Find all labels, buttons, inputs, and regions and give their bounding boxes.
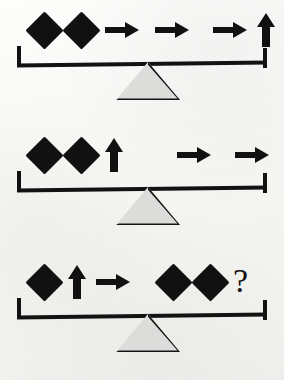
diamond-icon [62,11,100,49]
balance-scale-2 [0,125,284,251]
beam-end-right [263,300,267,320]
diamond-icon [25,136,63,174]
beam-end-left [17,171,21,191]
beam-end-right [263,48,267,68]
scale-3-beam [17,298,267,322]
unknown-question-mark: ? [233,264,248,300]
scale-2-beam [17,171,267,195]
arrow-right-icon [155,19,189,41]
diamond-icon [25,11,63,49]
arrow-right-icon [177,144,211,166]
arrow-right-icon [235,144,269,166]
balance-scale-1 [0,0,284,126]
diamond-icon [62,136,100,174]
puzzle-sheet: ? [0,0,284,380]
arrow-right-icon [96,271,130,293]
diamond-icon [154,263,192,301]
balance-scale-3: ? [0,252,284,378]
beam-end-left [17,46,21,66]
diamond-icon [25,263,63,301]
diamond-icon [191,263,229,301]
arrow-right-icon [213,19,247,41]
arrow-right-icon [105,19,139,41]
arrow-up-icon [256,13,276,47]
beam-bar [17,60,267,67]
beam-bar [17,312,267,319]
beam-bar [17,185,267,192]
scale-1-beam [17,46,267,70]
arrow-up-icon [104,138,124,172]
arrow-up-icon [67,265,87,299]
beam-end-left [17,298,21,318]
beam-end-right [263,173,267,193]
